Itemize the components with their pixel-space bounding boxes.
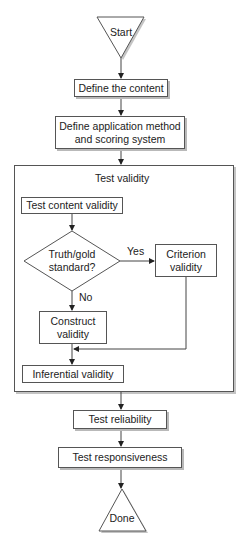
construct-line-1: Construct [51, 315, 96, 328]
define-method-box: Define application method and scoring sy… [55, 116, 185, 149]
content-validity-box: Test content validity [21, 197, 123, 214]
reliability-box: Test reliability [73, 410, 167, 429]
define-method-line-1: Define application method [59, 120, 180, 133]
decision-label: Truth/gold standard? [42, 248, 102, 274]
start-label: Start [101, 26, 141, 38]
done-triangle [99, 489, 146, 531]
reliability-label: Test reliability [88, 413, 151, 426]
construct-validity-box: Construct validity [39, 311, 107, 344]
validity-title: Test validity [95, 172, 149, 184]
criterion-line-2: validity [170, 261, 202, 274]
criterion-validity-box: Criterion validity [155, 244, 217, 277]
inferential-validity-box: Inferential validity [22, 365, 124, 383]
construct-line-2: validity [57, 328, 89, 341]
decision-line-1: Truth/gold [42, 248, 102, 261]
responsiveness-box: Test responsiveness [58, 447, 182, 468]
done-label: Done [102, 512, 142, 524]
define-method-line-2: and scoring system [75, 133, 165, 146]
define-content-label: Define the content [78, 82, 163, 95]
inferential-validity-label: Inferential validity [32, 368, 113, 381]
content-validity-label: Test content validity [26, 199, 118, 212]
yes-label: Yes [127, 245, 144, 257]
decision-line-2: standard? [42, 261, 102, 274]
responsiveness-label: Test responsiveness [72, 451, 167, 464]
criterion-line-1: Criterion [166, 248, 206, 261]
no-label: No [79, 291, 92, 303]
define-content-box: Define the content [74, 79, 168, 97]
